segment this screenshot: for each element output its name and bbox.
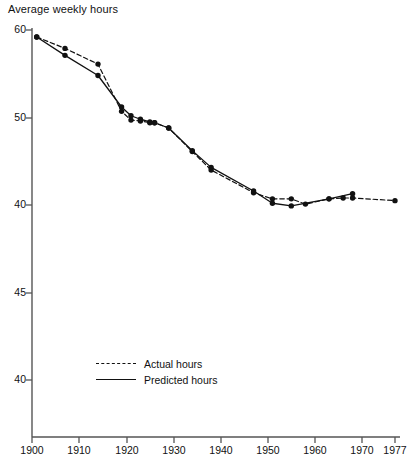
x-tick-marks [32, 437, 395, 443]
data-point-marker [95, 61, 100, 66]
x-tick-label: 1977 [375, 445, 411, 456]
x-tick-label: 1940 [201, 445, 241, 456]
legend-label: Predicted hours [144, 372, 218, 388]
data-point-marker [62, 46, 67, 51]
data-point-marker [190, 148, 195, 153]
series-actual [34, 34, 398, 207]
data-point-marker [62, 53, 67, 58]
data-point-marker [34, 34, 39, 39]
legend-item: Actual hours [96, 356, 266, 372]
data-point-marker [289, 196, 294, 201]
chart-figure: Average weekly hours 6050404540 19001910… [0, 0, 411, 462]
data-point-marker [119, 104, 124, 109]
series-layer [34, 34, 398, 208]
x-tick-label: 1960 [295, 445, 335, 456]
x-tick-label: 1900 [12, 445, 52, 456]
series-line [37, 37, 395, 204]
y-tick-marks [26, 30, 32, 380]
data-point-marker [152, 120, 157, 125]
data-point-marker [138, 117, 143, 122]
y-tick-label: 45 [0, 287, 26, 298]
data-point-marker [95, 73, 100, 78]
data-point-marker [350, 191, 355, 196]
chart-legend: Actual hoursPredicted hours [96, 356, 266, 388]
series-predicted [34, 34, 355, 208]
data-point-marker [251, 188, 256, 193]
x-tick-label: 1950 [248, 445, 288, 456]
x-tick-label: 1920 [107, 445, 147, 456]
x-tick-label: 1930 [154, 445, 194, 456]
legend-item: Predicted hours [96, 372, 266, 388]
series-line [37, 37, 353, 206]
data-point-marker [392, 198, 397, 203]
data-point-marker [326, 196, 331, 201]
y-tick-label: 50 [0, 112, 26, 123]
x-tick-label: 1910 [59, 445, 99, 456]
y-tick-label: 40 [0, 374, 26, 385]
data-point-marker [289, 203, 294, 208]
data-point-marker [166, 125, 171, 130]
solid-line-swatch-icon [96, 379, 136, 380]
dashed-line-swatch-icon [96, 363, 136, 364]
plot-area [0, 0, 411, 462]
data-point-marker [128, 113, 133, 118]
y-tick-label: 60 [0, 24, 26, 35]
data-point-marker [208, 165, 213, 170]
data-point-marker [270, 201, 275, 206]
legend-label: Actual hours [144, 356, 202, 372]
y-tick-label: 40 [0, 199, 26, 210]
data-point-marker [147, 119, 152, 124]
